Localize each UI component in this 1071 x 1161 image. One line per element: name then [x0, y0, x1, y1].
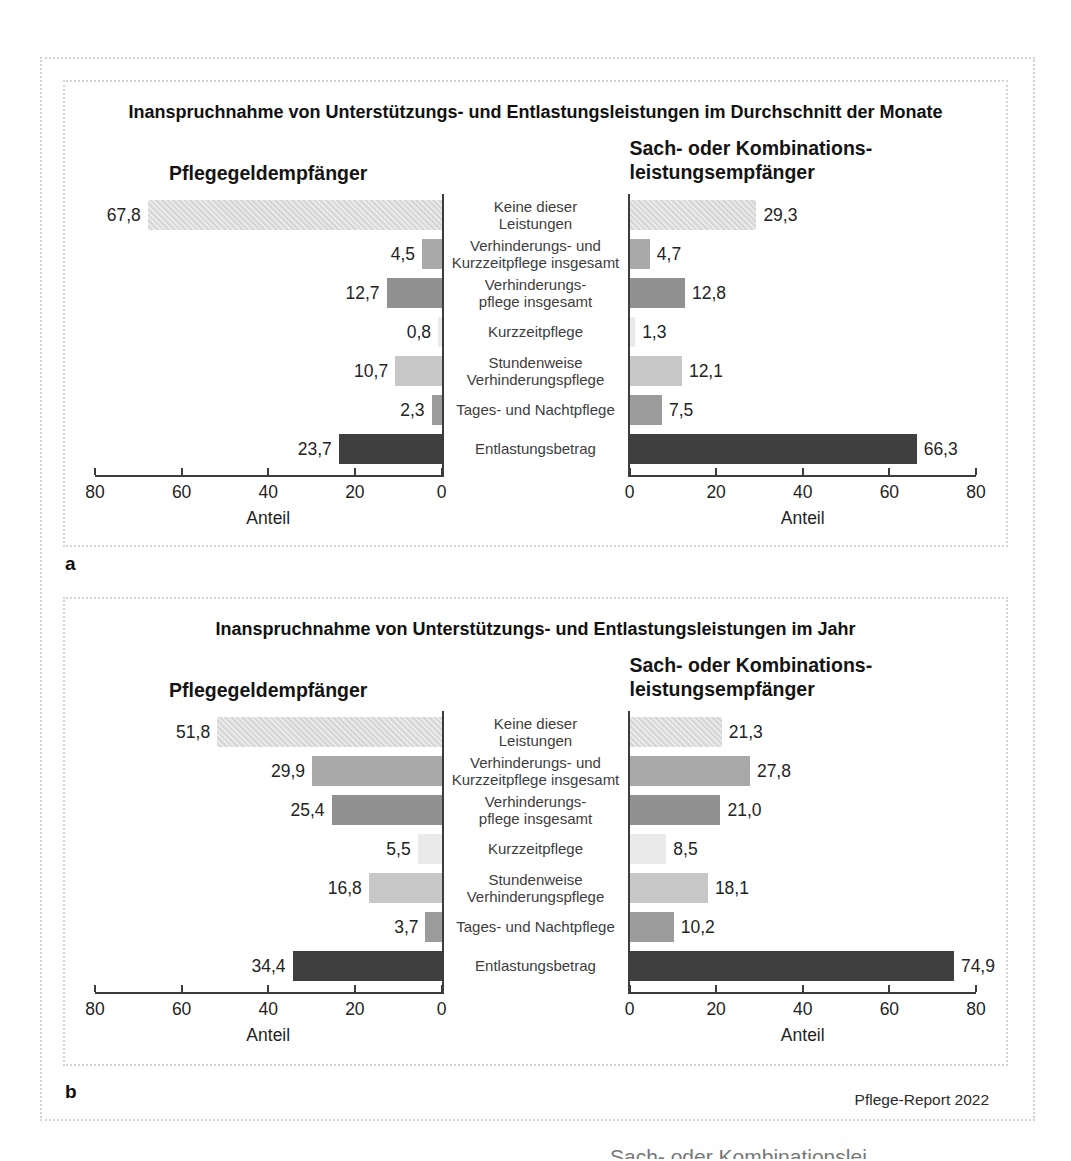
bar-row: 66,3	[630, 430, 977, 469]
bar	[630, 834, 667, 864]
bar-value-label: 7,5	[669, 400, 693, 421]
bar-value-label: 74,9	[961, 956, 995, 977]
category-label-text: Verhinderungs-pflege insgesamt	[479, 793, 592, 828]
axis-tick-label: 80	[966, 999, 985, 1020]
zero-baseline	[628, 711, 630, 994]
category-label: Keine dieserLeistungen	[442, 196, 630, 235]
bar-value-label: 66,3	[924, 439, 958, 460]
bar-row: 16,8	[95, 869, 442, 908]
axis-tick	[975, 985, 977, 992]
bar-row: 51,8	[95, 713, 442, 752]
category-label-text: StundenweiseVerhinderungspflege	[467, 354, 605, 389]
bar-value-label: 27,8	[757, 761, 791, 782]
bar	[630, 756, 750, 786]
bar-value-label: 4,5	[391, 244, 415, 265]
left-series-header: Pflegegeldempfänger	[95, 137, 442, 194]
left-bar-chart: 67,84,512,70,810,72,323,7020406080Anteil	[95, 194, 442, 529]
bar	[217, 717, 441, 747]
bar-row: 74,9	[630, 947, 977, 986]
bar-value-label: 29,9	[271, 761, 305, 782]
bar-value-label: 4,7	[657, 244, 681, 265]
x-axis-label: Anteil	[630, 1025, 977, 1046]
bar	[630, 278, 685, 308]
left-bar-chart: 51,829,925,45,516,83,734,4020406080Antei…	[95, 711, 442, 1046]
bar-row: 18,1	[630, 869, 977, 908]
category-labels: Keine dieserLeistungenVerhinderungs- und…	[442, 194, 630, 529]
bar	[630, 912, 674, 942]
bar-row: 8,5	[630, 830, 977, 869]
source-credit: Pflege-Report 2022	[855, 1091, 989, 1109]
bar	[630, 200, 757, 230]
axis-tick-label: 20	[345, 482, 364, 503]
panel-a-chart: Inanspruchnahme von Unterstützungs- und …	[63, 80, 1008, 547]
header-spacer	[442, 137, 630, 194]
right-series-header: Sach- oder Kombinations-leistungsempfäng…	[630, 654, 977, 711]
bar	[630, 717, 722, 747]
chart-title: Inanspruchnahme von Unterstützungs- und …	[95, 102, 976, 123]
bar	[422, 239, 441, 269]
axis-tick-label: 0	[437, 482, 447, 503]
bar-row: 27,8	[630, 752, 977, 791]
axis-tick	[267, 468, 269, 475]
axis-tick	[354, 468, 356, 475]
bar-value-label: 2,3	[400, 400, 424, 421]
axis-tick-labels: 020406080	[630, 482, 977, 504]
category-label: Keine dieserLeistungen	[442, 713, 630, 752]
category-label: Verhinderungs- undKurzzeitpflege insgesa…	[442, 752, 630, 791]
bar-value-label: 25,4	[290, 800, 324, 821]
bar	[630, 317, 636, 347]
bar	[630, 356, 682, 386]
bar-row: 12,1	[630, 352, 977, 391]
x-axis-label: Anteil	[95, 508, 442, 529]
category-label-text: Keine dieserLeistungen	[494, 198, 577, 233]
bar	[630, 434, 917, 464]
bar-value-label: 34,4	[251, 956, 285, 977]
bar-row: 25,4	[95, 791, 442, 830]
plot-area: 51,829,925,45,516,83,734,4	[95, 711, 442, 994]
axis-tick	[181, 985, 183, 992]
category-labels: Keine dieserLeistungenVerhinderungs- und…	[442, 711, 630, 1046]
bar-row: 34,4	[95, 947, 442, 986]
axis-tick-label: 60	[880, 999, 899, 1020]
zero-baseline	[628, 194, 630, 477]
category-label: Kurzzeitpflege	[442, 313, 630, 352]
bar-value-label: 18,1	[715, 878, 749, 899]
category-label-text: Tages- und Nachtpflege	[456, 401, 614, 418]
figure-frame: Inanspruchnahme von Unterstützungs- und …	[40, 57, 1035, 1121]
bar-row: 4,7	[630, 235, 977, 274]
right-series-header: Sach- oder Kombinations-leistungsempfäng…	[630, 137, 977, 194]
bar	[630, 795, 721, 825]
bar-row: 3,7	[95, 908, 442, 947]
right-series-header-text: Sach- oder Kombinations-leistungsempfäng…	[630, 137, 873, 185]
axis-tick-label: 40	[793, 999, 812, 1020]
bar-row: 2,3	[95, 391, 442, 430]
bar-value-label: 12,1	[689, 361, 723, 382]
axis-tick	[888, 985, 890, 992]
axis-tick-label: 20	[345, 999, 364, 1020]
bar-row: 7,5	[630, 391, 977, 430]
bar-value-label: 51,8	[176, 722, 210, 743]
category-label: Verhinderungs- undKurzzeitpflege insgesa…	[442, 235, 630, 274]
bar	[339, 434, 442, 464]
axis-tick-label: 80	[966, 482, 985, 503]
axis-tick-label: 0	[625, 999, 635, 1020]
axis-tick-labels: 020406080	[630, 999, 977, 1021]
axis-tick	[267, 985, 269, 992]
axis-tick-label: 40	[259, 482, 278, 503]
plot-area: 29,34,712,81,312,17,566,3	[630, 194, 977, 477]
bar	[387, 278, 442, 308]
bar-value-label: 12,7	[345, 283, 379, 304]
x-axis-label: Anteil	[630, 508, 977, 529]
axis-tick	[94, 985, 96, 992]
axis-tick-label: 0	[437, 999, 447, 1020]
right-bar-chart: 29,34,712,81,312,17,566,3020406080Anteil	[630, 194, 977, 529]
right-series-header-text: Sach- oder Kombinations-leistungsempfäng…	[630, 654, 873, 702]
bar-row: 67,8	[95, 196, 442, 235]
chart-title: Inanspruchnahme von Unterstützungs- und …	[95, 619, 976, 640]
bar-row: 10,2	[630, 908, 977, 947]
axis-tick	[802, 985, 804, 992]
axis-tick	[715, 468, 717, 475]
axis-tick-label: 80	[85, 482, 104, 503]
axis-tick-labels: 020406080	[95, 999, 442, 1021]
panel-b-chart: Inanspruchnahme von Unterstützungs- und …	[63, 597, 1008, 1066]
